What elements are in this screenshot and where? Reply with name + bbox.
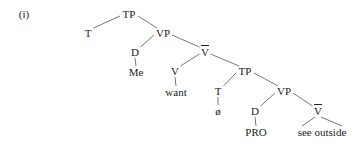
- tree-node-vbar2: V: [314, 105, 322, 117]
- tree-node-v1: V: [171, 65, 179, 77]
- tree-node-d2: D: [251, 105, 259, 117]
- tree-node-vbar1: V: [201, 46, 209, 58]
- tree-node-t2: T: [215, 85, 222, 97]
- tree-node-pro: PRO: [245, 126, 266, 138]
- tree-edges: [0, 0, 362, 144]
- tree-node-seeout: see outside: [298, 126, 347, 138]
- tree-node-tp2: TP: [239, 65, 252, 77]
- tree-node-want: want: [165, 86, 186, 98]
- tree-node-vp2: VP: [277, 85, 291, 97]
- tree-node-null: ø: [215, 105, 221, 117]
- tree-node-me: Me: [129, 66, 144, 78]
- tree-node-d1: D: [131, 46, 139, 58]
- tree-node-t1: T: [85, 27, 92, 39]
- tree-node-vp1: VP: [156, 27, 170, 39]
- tree-node-tp1: TP: [123, 8, 136, 20]
